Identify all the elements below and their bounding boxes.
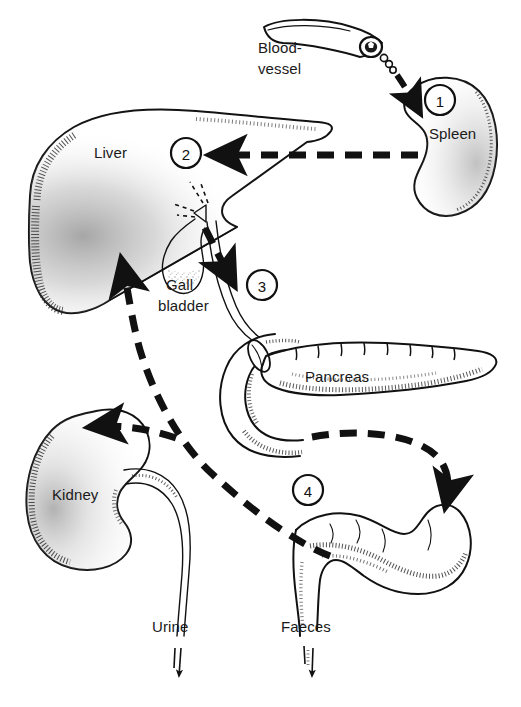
label-gall-bladder-line1: Gall — [166, 276, 193, 293]
step-number-4: 4 — [304, 483, 312, 500]
step-number-2: 2 — [182, 146, 190, 163]
label-urine: Urine — [152, 618, 188, 635]
organ-blood-vessel: Blood- vessel — [258, 20, 396, 77]
organ-duodenum — [220, 334, 303, 457]
label-faeces: Faeces — [281, 618, 331, 635]
label-pancreas: Pancreas — [305, 368, 369, 385]
organ-pancreas: Pancreas — [261, 343, 496, 396]
label-liver: Liver — [94, 144, 127, 161]
step-number-3: 3 — [258, 278, 266, 295]
label-gall-bladder-line2: bladder — [158, 297, 209, 314]
label-kidney: Kidney — [52, 486, 99, 503]
step-badge-2[interactable]: 2 — [171, 138, 201, 168]
label-blood-vessel-line1: Blood- — [258, 39, 302, 56]
organ-kidney: Kidney Urine — [26, 410, 190, 676]
step-number-1: 1 — [436, 93, 444, 110]
step-badge-3[interactable]: 3 — [247, 270, 277, 300]
step-badge-1[interactable]: 1 — [425, 85, 455, 115]
anatomy-flow-diagram: Blood- vessel Spleen Liver — [0, 0, 521, 707]
flow-arrow-duodenum-to-intestine — [312, 433, 448, 504]
diagram-canvas: Blood- vessel Spleen Liver — [0, 0, 521, 707]
step-badge-4[interactable]: 4 — [293, 475, 323, 505]
label-spleen: Spleen — [429, 125, 476, 142]
organ-intestine: Faeces — [281, 505, 471, 676]
label-blood-vessel-line2: vessel — [258, 60, 301, 77]
